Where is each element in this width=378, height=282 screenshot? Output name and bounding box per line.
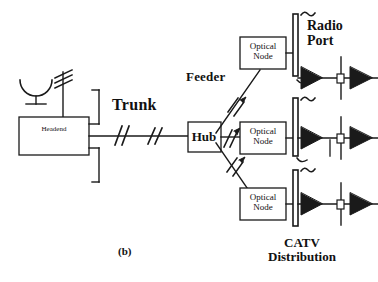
amplifier-triangle-icon — [350, 127, 372, 149]
headend-box — [19, 117, 89, 155]
tap-splitter-icon — [337, 74, 344, 83]
figure-caption: (b) — [118, 245, 131, 257]
amplifier-triangle-icon — [301, 193, 322, 215]
catv-distribution-row-1 — [298, 57, 378, 99]
radio-port-label: Radio Port — [307, 19, 343, 49]
radio-wave-tilde-icon-3 — [301, 168, 315, 172]
radio-port-mast-icon-2 — [293, 98, 298, 156]
headend-label: Headend — [32, 126, 76, 133]
optical-node-label-2: Optical Node — [243, 126, 283, 146]
catv-distribution-row-2 — [298, 117, 378, 159]
satellite-dish-icon — [20, 80, 52, 104]
hub-label: Hub — [190, 130, 218, 144]
radio-port-mast-icon-1 — [293, 14, 298, 76]
trunk-label: Trunk — [112, 96, 157, 114]
radio-port-label-line2: Port — [307, 34, 343, 49]
radio-wave-tilde-icon-2 — [301, 97, 315, 101]
radio-port-label-line1: Radio — [307, 19, 343, 34]
tap-splitter-icon — [337, 134, 344, 143]
optical-node-label-3-line2: Node — [243, 202, 283, 212]
optical-node-label-3-line1: Optical — [243, 192, 283, 202]
radio-port-mast-icon-3 — [293, 170, 298, 226]
catv-distribution-row-3 — [298, 183, 378, 225]
catv-distribution-label-line2: Distribution — [268, 250, 336, 264]
headend-upper-bracket — [89, 90, 99, 124]
optical-node-label-1: Optical Node — [243, 41, 283, 61]
radio-wave-hook-icon-2 — [297, 158, 307, 162]
optical-node-label-3: Optical Node — [243, 192, 283, 212]
amplifier-triangle-icon — [350, 193, 372, 215]
optical-node-label-1-line2: Node — [243, 51, 283, 61]
fiber-link-arrow-icon — [227, 157, 245, 176]
catv-distribution-label-line1: CATV — [268, 236, 336, 250]
optical-node-label-1-line1: Optical — [243, 41, 283, 51]
headend-lower-bracket — [89, 148, 99, 182]
feeder-label: Feeder — [186, 69, 225, 85]
yagi-antenna-icon — [55, 70, 72, 117]
tap-splitter-icon — [337, 200, 344, 209]
optical-node-label-2-line2: Node — [243, 136, 283, 146]
amplifier-triangle-icon — [301, 127, 322, 149]
amplifier-triangle-icon — [301, 67, 322, 89]
figure-canvas: Headend Trunk Feeder Hub Optical Node Op… — [0, 0, 378, 282]
radio-wave-tilde-icon-1 — [301, 12, 315, 16]
catv-distribution-label: CATV Distribution — [268, 236, 336, 265]
amplifier-triangle-icon — [350, 67, 372, 89]
optical-node-label-2-line1: Optical — [243, 126, 283, 136]
